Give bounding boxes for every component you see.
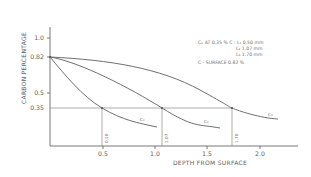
legend-line-4: C - SURFACE 0.82 %: [198, 60, 245, 65]
y-tick-0-82: 0.82: [30, 53, 44, 60]
legend-line-1: Cₚ AT 0.35 % C : L₁ 0.50 mm: [198, 40, 264, 45]
drop-label-l1: 0.50: [104, 133, 109, 143]
x-tick-0-5: 0.5: [98, 150, 108, 157]
curve-label-c3: C₃: [268, 112, 273, 117]
curve-c2: [50, 57, 220, 128]
curve-label-c2: C₂: [204, 119, 209, 124]
legend-line-2: L₂ 1.07 mm: [236, 46, 263, 51]
carbon-depth-chart: 1.0 0.82 0.5 0.35 0.5 1.0 1.5 2.0 CARBON…: [0, 0, 311, 177]
drop-label-l2: 1.07: [164, 133, 169, 143]
y-tick-0-35: 0.35: [30, 104, 44, 111]
x-tick-2-0: 2.0: [255, 150, 265, 157]
legend-annotation: Cₚ AT 0.35 % C : L₁ 0.50 mm L₂ 1.07 mm L…: [198, 40, 264, 65]
y-tick-1-0: 1.0: [34, 34, 44, 41]
drop-label-l3: 1.70: [234, 133, 239, 143]
legend-line-3: L₃ 1.70 mm: [236, 52, 263, 57]
x-axis-label: DEPTH FROM SURFACE: [173, 159, 247, 166]
x-tick-1-0: 1.0: [150, 150, 160, 157]
y-tick-0-5: 0.5: [34, 89, 44, 96]
x-tick-1-5: 1.5: [202, 150, 212, 157]
curve-label-c1: C₁: [140, 117, 145, 122]
y-axis-label: CARBON PERCENTAGE: [20, 32, 27, 104]
